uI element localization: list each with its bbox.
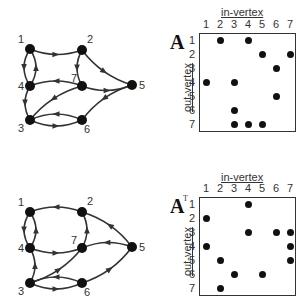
col-tick: 6 (270, 19, 282, 30)
col-tick: 5 (256, 183, 268, 194)
edge-arrow-icon (54, 268, 61, 274)
col-tick: 4 (242, 183, 254, 194)
edge-arrow-icon (53, 123, 60, 129)
vertex-label: 4 (18, 242, 24, 254)
edge-arrow-icon (53, 286, 60, 292)
edge-arrow-icon (53, 78, 60, 84)
row-tick: 1 (186, 35, 198, 46)
matrix-entry-dot (287, 51, 294, 58)
matrix-entry-dot (259, 51, 266, 58)
col-tick: 6 (270, 183, 282, 194)
matrix-entry-dot (259, 271, 266, 278)
graph-vertex (25, 81, 35, 91)
matrix-entry-dot (231, 121, 238, 128)
vertex-label: 6 (84, 123, 90, 135)
vertex-label: 5 (139, 241, 145, 253)
col-tick: 3 (228, 183, 240, 194)
matrix-entry-dot (287, 243, 294, 250)
row-tick: 7 (186, 119, 198, 130)
graph-vertex (25, 278, 35, 288)
edge-arrow-icon (53, 274, 60, 280)
graph-vertex (77, 81, 87, 91)
edge-arrow-icon (53, 250, 60, 256)
matrix-entry-dot (273, 229, 280, 236)
matrix-entry-dot (287, 257, 294, 264)
col-tick: 2 (214, 19, 226, 30)
vertex-label: 7 (71, 234, 77, 246)
graph-edge (82, 50, 132, 85)
matrix-entry-dot (203, 243, 210, 250)
vertex-label: 6 (84, 286, 90, 298)
matrix-entry-dot (273, 65, 280, 72)
vertex-label: 2 (87, 33, 93, 45)
edge-arrow-icon (21, 64, 27, 71)
graph-vertex (77, 45, 87, 55)
matrix-entry-dot (259, 121, 266, 128)
matrix-a-title: A (170, 32, 184, 52)
row-tick: 1 (186, 199, 198, 210)
row-tick: 5 (186, 255, 198, 266)
matrix-entry-dot (273, 93, 280, 100)
vertex-label: 1 (18, 196, 24, 208)
graph-vertex (127, 80, 137, 90)
col-tick: 3 (228, 19, 240, 30)
col-tick: 7 (284, 183, 296, 194)
row-tick: 2 (186, 213, 198, 224)
vertex-label: 2 (87, 195, 93, 207)
edge-arrow-icon (50, 95, 57, 101)
vertex-label: 7 (71, 72, 77, 84)
vertex-label: 3 (18, 285, 24, 297)
matrix-entry-dot (203, 215, 210, 222)
edge-arrow-icon (53, 204, 60, 210)
matrix-a-box (199, 33, 296, 132)
row-tick: 6 (186, 105, 198, 116)
matrix-entry-dot (217, 37, 224, 44)
row-tick: 7 (186, 283, 198, 294)
row-tick: 4 (186, 77, 198, 88)
matrix-entry-dot (203, 79, 210, 86)
edge-arrow-icon (74, 65, 80, 72)
matrix-entry-dot (245, 201, 252, 208)
graph-vertex (77, 243, 87, 253)
graph-vertex (25, 207, 35, 217)
graph-vertex (25, 44, 35, 54)
matrix-entry-dot (231, 107, 238, 114)
row-tick: 3 (186, 63, 198, 74)
edge-arrow-icon (52, 52, 59, 58)
edge-arrow-icon (104, 88, 111, 94)
matrix-entry-dot (245, 229, 252, 236)
edge-arrow-icon (103, 240, 110, 246)
row-tick: 4 (186, 241, 198, 252)
col-tick: 1 (200, 183, 212, 194)
vertex-label: 3 (18, 122, 24, 134)
matrix-entry-dot (217, 285, 224, 292)
row-tick: 2 (186, 49, 198, 60)
vertex-label: 5 (139, 79, 145, 91)
vertex-label: 4 (18, 80, 24, 92)
edge-arrow-icon (33, 64, 39, 71)
graph-edge (82, 247, 132, 283)
matrix-entry-dot (231, 271, 238, 278)
edge-arrow-icon (22, 100, 28, 107)
matrix-entry-dot (231, 79, 238, 86)
row-tick: 5 (186, 91, 198, 102)
row-tick: 3 (186, 227, 198, 238)
col-tick: 7 (284, 19, 296, 30)
graph-vertex (25, 243, 35, 253)
col-tick: 1 (200, 19, 212, 30)
edge-arrow-icon (84, 227, 90, 234)
vertex-label: 1 (18, 33, 24, 45)
edge-arrow-icon (21, 227, 27, 234)
matrix-at-box (199, 197, 296, 296)
col-tick: 5 (256, 19, 268, 30)
edge-arrow-icon (33, 227, 39, 234)
graph-vertex (25, 115, 35, 125)
matrix-entry-dot (217, 257, 224, 264)
matrix-entry-dot (245, 121, 252, 128)
graph-vertex (127, 242, 137, 252)
row-tick: 6 (186, 269, 198, 280)
matrix-entry-dot (245, 37, 252, 44)
matrix-entry-dot (287, 229, 294, 236)
matrix-a-col-axis-label: in-vertex (221, 6, 263, 18)
edge-arrow-icon (105, 267, 112, 273)
